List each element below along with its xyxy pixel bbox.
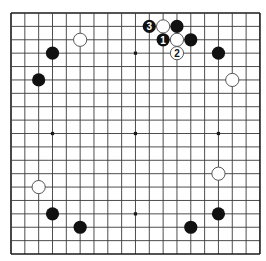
white-stone-disc — [212, 167, 225, 180]
black-stone[interactable] — [46, 207, 59, 220]
move-number-label: 1 — [160, 35, 166, 46]
white-stone-disc — [74, 33, 87, 46]
white-stone[interactable] — [226, 73, 239, 86]
white-stone[interactable] — [170, 33, 183, 46]
white-stone[interactable] — [74, 33, 87, 46]
star-point — [217, 132, 220, 135]
go-board[interactable]: 312 — [0, 0, 266, 261]
black-stone-disc — [32, 73, 45, 86]
black-stone[interactable] — [74, 221, 87, 234]
star-point — [134, 212, 137, 215]
white-stone-move-2[interactable]: 2 — [170, 47, 183, 60]
move-number-label: 2 — [174, 48, 180, 59]
black-stone-disc — [46, 207, 59, 220]
black-stone-disc — [74, 221, 87, 234]
black-stone[interactable] — [170, 20, 183, 33]
white-stone-disc — [170, 33, 183, 46]
black-stone[interactable] — [184, 33, 197, 46]
black-stone[interactable] — [32, 73, 45, 86]
black-stone-disc — [212, 207, 225, 220]
black-stone-disc — [170, 20, 183, 33]
move-number-label: 3 — [147, 21, 153, 32]
black-stone[interactable] — [184, 221, 197, 234]
black-stone[interactable] — [212, 207, 225, 220]
black-stone-disc — [46, 47, 59, 60]
star-point — [51, 132, 54, 135]
white-stone-disc — [157, 20, 170, 33]
white-stone-disc — [226, 73, 239, 86]
black-stone-disc — [184, 221, 197, 234]
white-stone[interactable] — [212, 167, 225, 180]
white-stone-disc — [32, 180, 45, 193]
star-point — [134, 52, 137, 55]
white-stone[interactable] — [32, 180, 45, 193]
black-stone-move-3[interactable]: 3 — [143, 20, 156, 33]
star-point — [134, 132, 137, 135]
black-stone-disc — [184, 33, 197, 46]
white-stone[interactable] — [157, 20, 170, 33]
black-stone-move-1[interactable]: 1 — [157, 33, 170, 46]
black-stone[interactable] — [212, 47, 225, 60]
black-stone[interactable] — [46, 47, 59, 60]
black-stone-disc — [212, 47, 225, 60]
